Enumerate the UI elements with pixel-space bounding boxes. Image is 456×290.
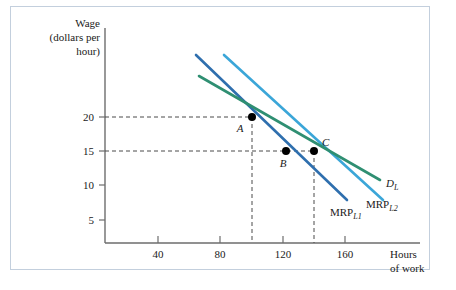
- curve-label-mrp-l1-main: MRP: [330, 206, 353, 218]
- y-axis-title: Wage (dollars per hour): [50, 17, 101, 58]
- y-tick-label-10: 10: [83, 179, 95, 191]
- curve-label-d-l-main: D: [385, 177, 394, 189]
- point-a-marker[interactable]: [248, 113, 256, 121]
- guide-lines-group: [105, 117, 314, 243]
- x-tick-label-40: 40: [153, 248, 165, 260]
- y-axis-title-line1: Wage: [75, 17, 100, 29]
- x-axis-title-line2: of work: [390, 262, 425, 274]
- curve-d-l[interactable]: [199, 76, 380, 180]
- point-label-c: C: [322, 136, 330, 148]
- curve-label-mrp-l2-sub: L2: [388, 204, 397, 213]
- x-axis-title-line1: Hours: [390, 248, 417, 260]
- point-c-marker[interactable]: [310, 147, 318, 155]
- y-tick-label-20: 20: [83, 111, 95, 123]
- x-axis-title: Hours of work: [390, 248, 425, 274]
- curve-label-mrp-l2: MRPL2: [366, 198, 398, 213]
- curve-label-mrp-l2-main: MRP: [366, 198, 389, 210]
- curve-label-d-l-sub: L: [393, 183, 399, 192]
- point-label-b: B: [280, 157, 287, 169]
- x-tick-label-80: 80: [215, 248, 227, 260]
- curve-label-d-l: DL: [385, 177, 399, 192]
- y-tick-label-5: 5: [89, 214, 95, 226]
- x-tick-label-160: 160: [337, 248, 354, 260]
- y-axis-title-line3: hour): [76, 45, 100, 58]
- curves-group: [196, 55, 383, 200]
- curve-label-mrp-l1-sub: L1: [352, 212, 361, 221]
- y-axis-title-line2: (dollars per: [50, 31, 101, 44]
- y-ticks-group: [99, 117, 105, 220]
- curve-mrp-l2[interactable]: [224, 55, 383, 200]
- data-points-group: [248, 113, 318, 155]
- x-tick-labels-group: 40 80 120 160: [153, 248, 354, 260]
- axes-group: [105, 28, 420, 243]
- point-b-marker[interactable]: [282, 147, 290, 155]
- curve-label-mrp-l1: MRPL1: [330, 206, 362, 221]
- curve-mrp-l1[interactable]: [196, 55, 347, 200]
- point-labels-group: A B C: [236, 122, 330, 169]
- point-label-a: A: [236, 122, 244, 134]
- wage-hours-chart: 20 15 10 5 40 80 120 160 Wage (dollars p…: [0, 0, 456, 290]
- y-tick-label-15: 15: [83, 145, 95, 157]
- y-tick-labels-group: 20 15 10 5: [83, 111, 95, 226]
- x-tick-label-120: 120: [275, 248, 292, 260]
